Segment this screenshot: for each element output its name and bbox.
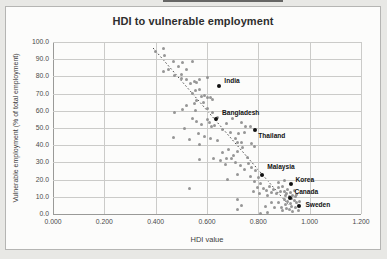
y-tick-label: 30.0: [23, 158, 49, 165]
scatter-point: [265, 189, 268, 192]
country-label-thailand: Thailand: [258, 132, 285, 139]
v-gridline: [104, 42, 105, 214]
scatter-point: [279, 190, 282, 193]
scatter-point: [183, 127, 186, 130]
y-tick-label: 10.0: [23, 193, 49, 200]
scatter-point: [216, 139, 219, 142]
scatter-point: [211, 98, 214, 101]
x-tick-label: 0.400: [139, 218, 173, 225]
scatter-point: [254, 169, 257, 172]
chart-title: HDI to vulnerable employment: [6, 15, 380, 27]
country-label-canada: Canada: [294, 188, 318, 195]
scatter-point: [264, 205, 267, 208]
scatter-point: [258, 192, 261, 195]
x-axis-line: [53, 214, 361, 215]
chart-panel: HDI to vulnerable employment Vulnerable …: [5, 6, 381, 250]
y-tick-label: 70.0: [23, 90, 49, 97]
y-tick-label: 80.0: [23, 72, 49, 79]
scatter-point: [252, 190, 255, 193]
scatter-point: [288, 208, 291, 211]
v-gridline: [361, 42, 362, 214]
country-label-bangladesh: Bangladesh: [222, 109, 259, 116]
y-tick-label: 0.0: [23, 210, 49, 217]
scatter-point: [247, 162, 250, 165]
scatter-point: [189, 82, 192, 85]
y-tick-label: 50.0: [23, 124, 49, 131]
scatter-point: [198, 143, 201, 146]
country-label-malaysia: Malaysia: [267, 163, 295, 170]
scatter-point: [185, 68, 188, 71]
y-tick-label: 40.0: [23, 141, 49, 148]
y-tick-label: 100.0: [23, 38, 49, 45]
scatter-point: [270, 191, 273, 194]
scatter-point: [244, 125, 247, 128]
scatter-point: [240, 141, 243, 144]
country-label-korea: Korea: [295, 176, 314, 183]
scatter-point: [240, 204, 243, 207]
scatter-point: [249, 175, 252, 178]
scatter-point: [167, 68, 170, 71]
scatter-point: [236, 198, 239, 201]
scatter-point: [256, 186, 259, 189]
scatter-point: [236, 173, 239, 176]
x-tick-label: 1.200: [344, 218, 378, 225]
scatter-point: [270, 201, 273, 204]
scatter-point: [243, 168, 246, 171]
scatter-point: [253, 180, 256, 183]
x-tick-label: 1.000: [293, 218, 327, 225]
scatter-point: [194, 89, 197, 92]
scatter-point: [221, 151, 224, 154]
scatter-point: [234, 161, 237, 164]
scan-artifact-line: [163, 0, 283, 2]
highlighted-point-malaysia: [260, 173, 264, 177]
x-axis-title: HDI value: [53, 235, 361, 244]
scatter-point: [297, 209, 300, 212]
scatter-point: [198, 158, 201, 161]
scatter-point: [249, 125, 252, 128]
scatter-point: [275, 192, 278, 195]
scatter-point: [188, 187, 191, 190]
scatter-point: [283, 179, 286, 182]
y-tick-label: 20.0: [23, 176, 49, 183]
x-tick-label: 0.800: [241, 218, 275, 225]
scatter-point: [177, 65, 180, 68]
y-tick-label: 60.0: [23, 107, 49, 114]
scatter-point: [225, 122, 228, 125]
scatter-point: [197, 132, 200, 135]
scatter-point: [198, 88, 201, 91]
v-gridline: [207, 42, 208, 214]
scatter-point: [202, 101, 205, 104]
scatter-point: [162, 70, 165, 73]
scatter-point: [206, 76, 209, 79]
x-tick-label: 0.600: [190, 218, 224, 225]
scatter-point: [234, 137, 237, 140]
scatter-point: [284, 203, 287, 206]
plot-area: IndiaBangladeshThailandMalaysiaKoreaCana…: [53, 42, 361, 214]
scatter-point: [188, 138, 191, 141]
x-tick-label: 0.000: [36, 218, 70, 225]
scatter-point: [240, 121, 243, 124]
scatter-point: [206, 107, 209, 110]
x-tick-label: 0.200: [87, 218, 121, 225]
page: { "page": { "artifact_note": "dark line …: [0, 0, 387, 259]
scatter-point: [290, 205, 293, 208]
country-label-india: India: [224, 77, 239, 84]
v-gridline: [156, 42, 157, 214]
scatter-point: [211, 111, 214, 114]
y-axis-title: Vulnerable employment (% of total employ…: [12, 53, 19, 202]
y-tick-label: 90.0: [23, 55, 49, 62]
scatter-point: [225, 157, 228, 160]
scatter-point: [298, 200, 301, 203]
country-label-sweden: Sweden: [305, 201, 330, 208]
scatter-point: [203, 135, 206, 138]
